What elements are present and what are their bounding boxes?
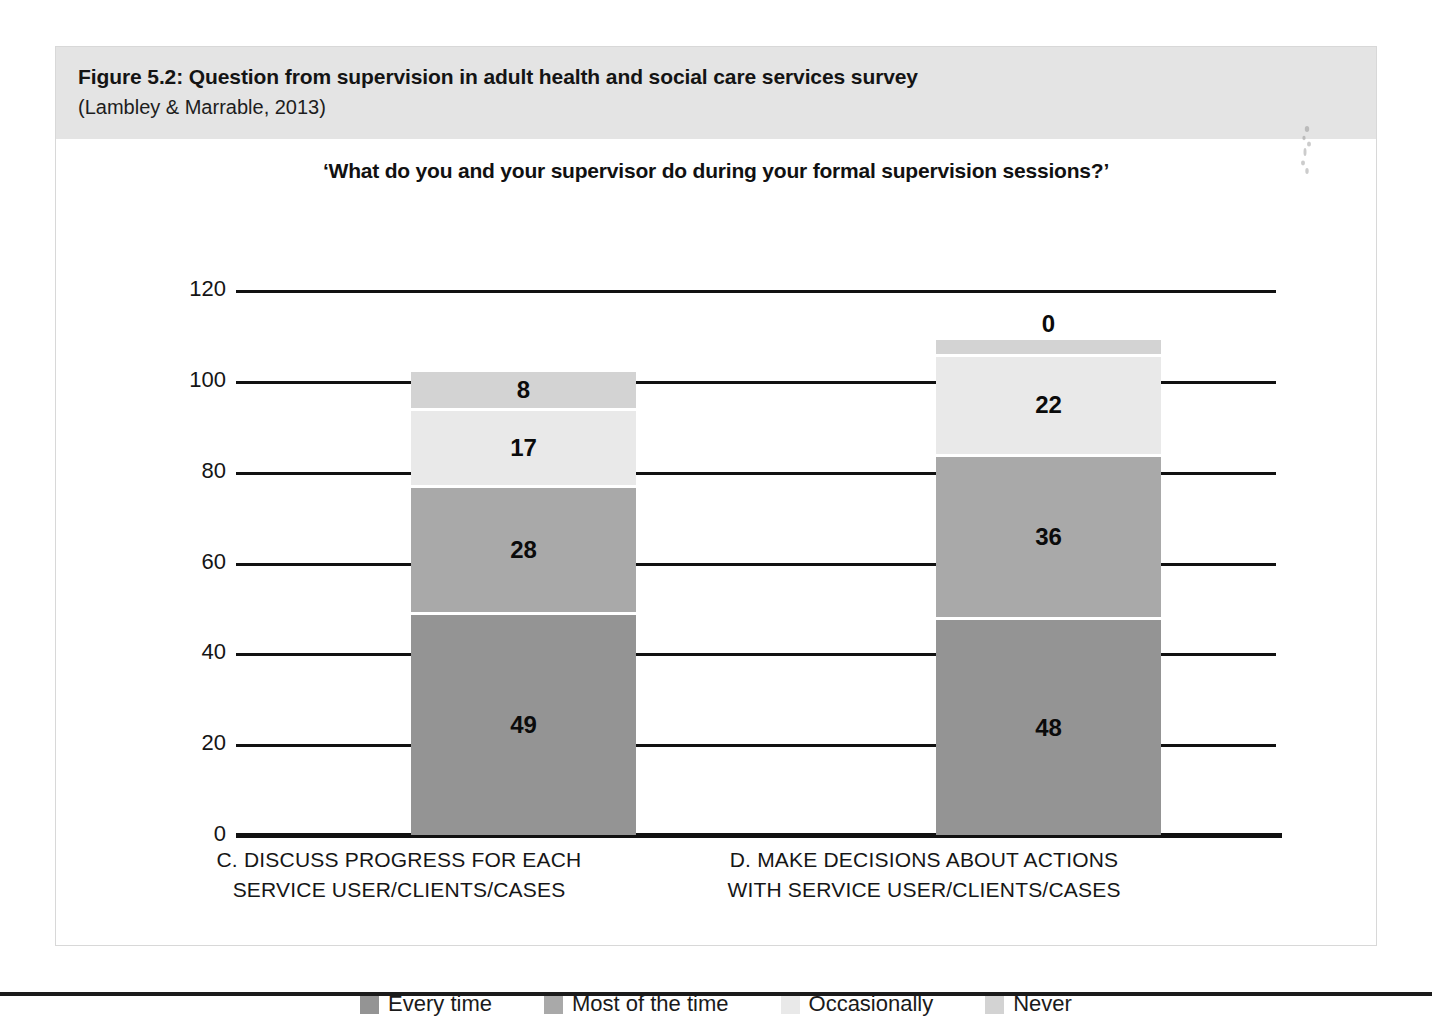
- x-axis-category-0-line-1: SERVICE USER/CLIENTS/CASES: [184, 875, 614, 905]
- bar-segment-0-0[interactable]: 49: [411, 612, 636, 835]
- bar-value-label-0-0: 49: [411, 711, 636, 739]
- bar-segment-1-3[interactable]: 0: [936, 340, 1161, 354]
- bar-value-label-0-1: 28: [411, 536, 636, 564]
- y-axis-tick-label-120: 120: [141, 276, 226, 302]
- legend-swatch-icon-2: [781, 995, 800, 1014]
- stacked-bar-category-0[interactable]: 8172849: [411, 372, 636, 835]
- stacked-bar-category-1[interactable]: 0223648: [936, 340, 1161, 835]
- bar-value-label-1-2: 22: [936, 391, 1161, 419]
- legend-swatch-icon-0: [360, 995, 379, 1014]
- bar-segment-1-0[interactable]: 48: [936, 617, 1161, 835]
- chart-title: ‘What do you and your supervisor do duri…: [56, 159, 1376, 183]
- bar-value-label-1-3: 0: [936, 310, 1161, 338]
- y-axis-tick-label-40: 40: [141, 639, 226, 665]
- chart-area: ‘What do you and your supervisor do duri…: [56, 139, 1376, 947]
- bar-value-label-0-3: 8: [411, 376, 636, 404]
- legend-swatch-icon-1: [544, 995, 563, 1014]
- gridline-120: [236, 290, 1276, 293]
- bar-segment-0-3[interactable]: 8: [411, 372, 636, 408]
- bar-value-label-1-0: 48: [936, 714, 1161, 742]
- y-axis-tick-label-80: 80: [141, 458, 226, 484]
- legend-swatch-icon-3: [985, 995, 1004, 1014]
- x-axis-category-0-line-0: C. DISCUSS PROGRESS FOR EACH: [184, 845, 614, 875]
- figure-source-citation: (Lambley & Marrable, 2013): [78, 93, 1376, 121]
- bar-segment-1-2[interactable]: 22: [936, 354, 1161, 454]
- figure-container: Figure 5.2: Question from supervision in…: [55, 46, 1377, 946]
- bar-segment-1-1[interactable]: 36: [936, 454, 1161, 618]
- plot-area: 020406080100120 8172849 0223648: [181, 290, 1276, 835]
- y-axis-tick-label-100: 100: [141, 367, 226, 393]
- y-axis-tick-label-0: 0: [141, 821, 226, 847]
- y-axis-tick-label-60: 60: [141, 549, 226, 575]
- y-axis-tick-label-20: 20: [141, 730, 226, 756]
- bar-segment-0-2[interactable]: 17: [411, 408, 636, 485]
- figure-title: Figure 5.2: Question from supervision in…: [78, 63, 1376, 91]
- x-axis-category-1-line-1: WITH SERVICE USER/CLIENTS/CASES: [709, 875, 1139, 905]
- x-axis-category-1-line-0: D. MAKE DECISIONS ABOUT ACTIONS: [709, 845, 1139, 875]
- page-bottom-rule: [0, 992, 1432, 996]
- bar-value-label-0-2: 17: [411, 434, 636, 462]
- x-axis-category-label-0: C. DISCUSS PROGRESS FOR EACHSERVICE USER…: [184, 845, 614, 905]
- bar-segment-0-1[interactable]: 28: [411, 485, 636, 612]
- bar-value-label-1-1: 36: [936, 523, 1161, 551]
- figure-header: Figure 5.2: Question from supervision in…: [56, 47, 1376, 139]
- x-axis-category-label-1: D. MAKE DECISIONS ABOUT ACTIONSWITH SERV…: [709, 845, 1139, 905]
